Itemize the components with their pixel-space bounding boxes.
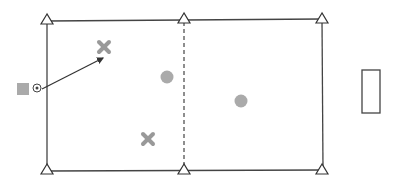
pass-arrow — [42, 58, 103, 89]
server-player-icon — [17, 83, 29, 95]
cone-icon — [178, 164, 190, 174]
defender-icon — [161, 71, 174, 84]
attacker-icon — [143, 134, 153, 144]
attacker-icon — [99, 42, 109, 52]
cone-icon — [178, 13, 190, 23]
cone-icon — [41, 164, 53, 174]
cone-icon — [41, 14, 53, 24]
field-boundary — [47, 19, 323, 171]
cone-icon — [316, 13, 328, 23]
drill-diagram — [0, 0, 397, 184]
goal-icon — [362, 70, 380, 113]
cone-icon — [316, 164, 328, 174]
defender-icon — [235, 95, 248, 108]
ball-icon — [33, 84, 41, 92]
field-canvas — [0, 0, 397, 184]
